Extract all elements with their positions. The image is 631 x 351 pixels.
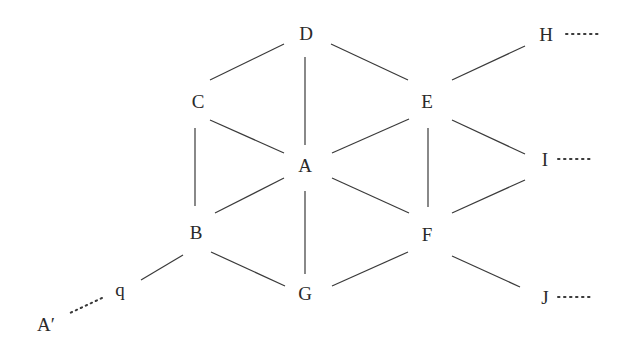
edge-B-G [211,252,285,286]
node-J: J [541,288,548,307]
node-q: q [115,280,125,299]
node-D: D [299,24,313,43]
edge-B-q [141,255,183,280]
edge-D-E [331,44,408,80]
edge-C-A [210,120,284,153]
node-G: G [298,284,312,303]
edge-A-F [332,178,409,213]
edge-A-B [215,178,284,213]
node-H: H [539,25,553,44]
node-C: C [192,92,205,111]
edge-E-H [452,46,525,80]
node-I: I [542,150,548,169]
edge-F-I [452,180,525,213]
edge-layer [0,0,631,351]
edge-A-E [332,119,409,153]
edge-q-Ap [70,298,102,313]
node-A-prime: A′ [37,315,55,334]
edge-E-I [452,120,525,154]
edge-F-J [452,256,520,287]
node-E: E [421,92,433,111]
node-F: F [422,225,433,244]
edge-D-C [210,44,284,80]
graph-diagram: D C E A B F G H I J q A′ [0,0,631,351]
node-B: B [190,223,203,242]
node-A: A [298,156,312,175]
edge-G-F [332,252,408,286]
